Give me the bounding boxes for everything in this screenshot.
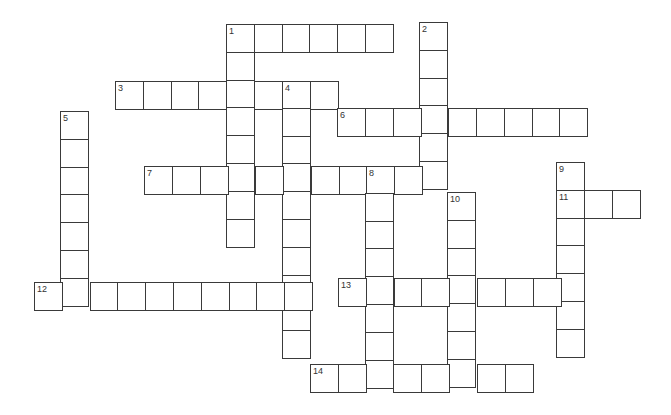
crossword-cell[interactable]: 8 xyxy=(366,166,395,195)
crossword-cell[interactable] xyxy=(532,108,561,137)
crossword-cell[interactable]: 1 xyxy=(226,24,255,53)
crossword-cell[interactable] xyxy=(337,24,366,53)
crossword-cell[interactable] xyxy=(282,191,311,220)
crossword-cell[interactable] xyxy=(393,108,422,137)
crossword-cell[interactable] xyxy=(556,218,585,247)
crossword-cell[interactable] xyxy=(365,221,394,250)
crossword-cell[interactable] xyxy=(419,78,448,107)
crossword-cell[interactable] xyxy=(365,276,394,305)
crossword-cell[interactable]: 13 xyxy=(338,278,367,307)
crossword-cell[interactable] xyxy=(254,81,283,110)
crossword-cell[interactable] xyxy=(226,191,255,220)
crossword-cell[interactable] xyxy=(339,166,368,195)
crossword-cell[interactable]: 10 xyxy=(447,192,476,221)
crossword-cell[interactable]: 14 xyxy=(310,364,339,393)
crossword-cell[interactable] xyxy=(505,278,534,307)
crossword-cell[interactable] xyxy=(229,282,258,311)
crossword-cell[interactable] xyxy=(90,282,119,311)
crossword-cell[interactable] xyxy=(421,278,450,307)
crossword-cell[interactable] xyxy=(60,250,89,279)
crossword-cell[interactable]: 3 xyxy=(115,81,144,110)
crossword-cell[interactable] xyxy=(198,81,227,110)
crossword-cell[interactable] xyxy=(310,81,339,110)
crossword-cell[interactable]: 9 xyxy=(556,162,585,191)
crossword-cell[interactable] xyxy=(505,364,534,393)
crossword-cell[interactable] xyxy=(226,163,255,192)
crossword-cell[interactable] xyxy=(143,81,172,110)
crossword-cell[interactable] xyxy=(447,331,476,360)
crossword-cell[interactable] xyxy=(612,190,641,219)
crossword-cell[interactable]: 6 xyxy=(337,108,366,137)
crossword-cell[interactable] xyxy=(282,108,311,137)
crossword-cell[interactable] xyxy=(419,105,448,134)
crossword-cell[interactable] xyxy=(282,219,311,248)
crossword-cell[interactable] xyxy=(254,24,283,53)
crossword-cell[interactable] xyxy=(173,282,202,311)
crossword-cell[interactable] xyxy=(60,167,89,196)
crossword-cell[interactable] xyxy=(171,81,200,110)
crossword-cell[interactable] xyxy=(60,194,89,223)
crossword-cell[interactable] xyxy=(393,364,422,393)
crossword-cell[interactable] xyxy=(255,166,284,195)
crossword-cell[interactable] xyxy=(282,136,311,165)
crossword-cell[interactable] xyxy=(282,330,311,359)
crossword-cell[interactable] xyxy=(311,166,340,195)
crossword-cell[interactable] xyxy=(447,275,476,304)
crossword-cell[interactable] xyxy=(282,247,311,276)
crossword-cell[interactable]: 4 xyxy=(282,81,311,110)
crossword-cell[interactable] xyxy=(419,50,448,79)
crossword-cell[interactable] xyxy=(201,282,230,311)
crossword-cell[interactable] xyxy=(584,190,613,219)
crossword-cell[interactable] xyxy=(394,166,423,195)
crossword-cell[interactable] xyxy=(338,364,367,393)
crossword-cell[interactable] xyxy=(282,163,311,192)
crossword-cell[interactable] xyxy=(200,166,229,195)
crossword-cell[interactable] xyxy=(226,219,255,248)
crossword-cell[interactable] xyxy=(556,329,585,358)
crossword-cell[interactable] xyxy=(477,364,506,393)
crossword-cell[interactable] xyxy=(365,248,394,277)
crossword-cell[interactable] xyxy=(172,166,201,195)
crossword-cell[interactable] xyxy=(447,359,476,388)
crossword-cell[interactable]: 12 xyxy=(34,282,63,311)
crossword-cell[interactable] xyxy=(447,303,476,332)
crossword-cell[interactable] xyxy=(477,278,506,307)
crossword-cell[interactable] xyxy=(476,108,505,137)
crossword-cell[interactable] xyxy=(559,108,588,137)
crossword-cell[interactable] xyxy=(309,24,338,53)
crossword-cell[interactable] xyxy=(421,364,450,393)
crossword-cell[interactable] xyxy=(60,139,89,168)
crossword-cell[interactable] xyxy=(226,135,255,164)
crossword-cell[interactable] xyxy=(226,52,255,81)
crossword-cell[interactable] xyxy=(365,360,394,389)
crossword-cell[interactable] xyxy=(365,332,394,361)
crossword-cell[interactable] xyxy=(365,304,394,333)
crossword-cell[interactable] xyxy=(226,80,255,109)
crossword-cell[interactable] xyxy=(60,222,89,251)
crossword-cell[interactable] xyxy=(533,278,562,307)
crossword-cell[interactable] xyxy=(365,193,394,222)
crossword-cell[interactable] xyxy=(60,278,89,307)
crossword-cell[interactable]: 7 xyxy=(144,166,173,195)
crossword-cell[interactable] xyxy=(448,108,477,137)
clue-number: 8 xyxy=(369,168,374,178)
crossword-cell[interactable] xyxy=(284,282,313,311)
crossword-cell[interactable] xyxy=(419,161,448,190)
crossword-cell[interactable] xyxy=(117,282,146,311)
crossword-cell[interactable] xyxy=(447,220,476,249)
crossword-cell[interactable] xyxy=(504,108,533,137)
crossword-cell[interactable] xyxy=(556,245,585,274)
crossword-cell[interactable]: 11 xyxy=(556,190,585,219)
crossword-cell[interactable] xyxy=(145,282,174,311)
crossword-cell[interactable] xyxy=(226,107,255,136)
crossword-cell[interactable]: 2 xyxy=(419,22,448,51)
crossword-cell[interactable] xyxy=(282,24,311,53)
clue-number: 12 xyxy=(37,284,47,294)
crossword-cell[interactable] xyxy=(447,248,476,277)
crossword-cell[interactable] xyxy=(365,24,394,53)
crossword-cell[interactable] xyxy=(365,108,394,137)
crossword-cell[interactable] xyxy=(394,278,423,307)
crossword-cell[interactable] xyxy=(419,133,448,162)
crossword-cell[interactable] xyxy=(256,282,285,311)
crossword-cell[interactable]: 5 xyxy=(60,111,89,140)
